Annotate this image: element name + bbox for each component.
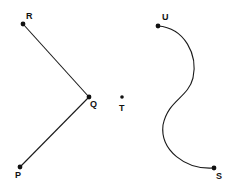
segment-rq	[23, 24, 89, 97]
point-s	[212, 166, 217, 171]
point-r	[21, 22, 26, 27]
point-t	[120, 95, 124, 99]
label-q: Q	[90, 99, 97, 109]
label-s: S	[216, 171, 222, 181]
label-t: T	[119, 103, 125, 113]
label-r: R	[26, 11, 33, 21]
curve-us	[158, 26, 214, 168]
segment-qp	[20, 97, 89, 167]
point-p	[18, 165, 23, 170]
label-u: U	[162, 12, 169, 22]
label-p: P	[15, 170, 21, 180]
geometry-diagram: R Q P T U S	[0, 0, 236, 194]
point-u	[156, 24, 161, 29]
